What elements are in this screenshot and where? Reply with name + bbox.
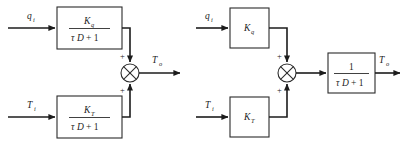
left-diagram: q i K q τ D + 1 + T i K T τ D + 1 — [8, 7, 180, 138]
block-kq-numerator: K — [83, 16, 91, 26]
sign-plus-top-right: + — [277, 51, 282, 61]
label-input-Ti-subscript: i — [34, 105, 36, 112]
block-kq-denominator-D: D — [76, 33, 84, 43]
block-kt-label-subscript: T — [251, 117, 255, 124]
block-kt-numerator-subscript: T — [91, 110, 95, 117]
block-kq-denominator-rest: + 1 — [86, 33, 99, 43]
block-kq-denominator-tau: τ — [71, 33, 75, 43]
block-lag-denominator-tau: τ — [336, 78, 340, 88]
block-kq-label: K — [243, 23, 251, 33]
label-output-To-2-subscript: o — [386, 60, 389, 67]
block-kt-denominator-D: D — [76, 122, 84, 132]
sign-plus-bottom-left: + — [120, 85, 125, 95]
label-output-To-subscript: o — [159, 60, 162, 67]
block-kt-numerator: K — [83, 105, 91, 115]
label-input-qi: q — [27, 11, 32, 21]
label-input-qi-2-subscript: i — [211, 16, 213, 23]
block-lag-numerator: 1 — [349, 62, 354, 72]
block-lag-denominator-rest: + 1 — [351, 78, 364, 88]
label-output-To-2: T — [379, 55, 385, 65]
block-diagram-figure: q i K q τ D + 1 + T i K T τ D + 1 — [0, 0, 405, 155]
label-output-To: T — [152, 55, 158, 65]
label-input-Ti: T — [27, 100, 33, 110]
block-kt-denominator-rest: + 1 — [86, 122, 99, 132]
label-input-Ti-2: T — [205, 100, 211, 110]
sign-plus-bottom-right: + — [277, 85, 282, 95]
label-input-Ti-2-subscript: i — [212, 105, 214, 112]
right-diagram: q i K q + T i K T + — [196, 8, 400, 137]
block-kt-denominator-tau: τ — [71, 122, 75, 132]
block-lag-denominator-D: D — [341, 78, 349, 88]
block-kt-label: K — [243, 112, 251, 122]
label-input-qi-subscript: i — [33, 16, 35, 23]
label-input-qi-2: q — [205, 11, 210, 21]
sign-plus-top-left: + — [120, 51, 125, 61]
figure-canvas: q i K q τ D + 1 + T i K T τ D + 1 — [0, 0, 405, 155]
